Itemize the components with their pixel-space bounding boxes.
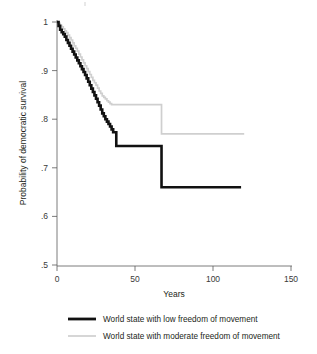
y-tick-label-1: 1 (43, 17, 48, 27)
top-crop-artifact (84, 2, 86, 6)
y-tick-label-05: .5 (41, 260, 48, 270)
y-tick-label-08: .8 (41, 114, 48, 124)
x-tick-label-100: 100 (206, 274, 220, 284)
y-axis-title: Probability of democratic survival (18, 81, 28, 205)
y-axis-ticks (52, 22, 57, 265)
survival-chart: 1 .9 .8 .7 .6 .5 0 50 100 150 Years Prob… (0, 0, 317, 354)
x-tick-label-50: 50 (130, 274, 140, 284)
legend-label-moderate-freedom: World state with moderate freedom of mov… (103, 332, 281, 341)
x-tick-label-0: 0 (55, 274, 60, 284)
y-tick-label-07: .7 (41, 163, 48, 173)
y-tick-label-06: .6 (41, 211, 48, 221)
x-axis-ticks (57, 266, 291, 271)
x-axis-title: Years (163, 289, 184, 299)
chart-canvas: 1 .9 .8 .7 .6 .5 0 50 100 150 Years Prob… (0, 0, 317, 354)
x-tick-label-150: 150 (284, 274, 298, 284)
chart-legend: World state with low freedom of movement… (68, 315, 281, 341)
y-tick-label-09: .9 (41, 66, 48, 76)
series-line-moderate-freedom (57, 22, 244, 134)
legend-label-low-freedom: World state with low freedom of movement (103, 315, 258, 324)
